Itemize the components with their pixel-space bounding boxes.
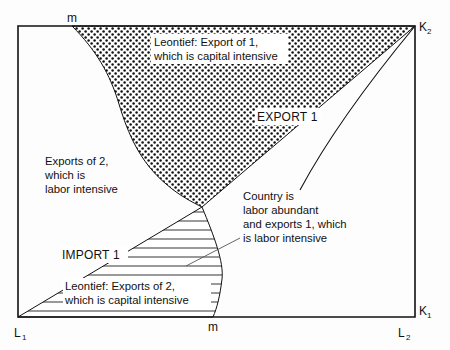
leontief-exports-2-line-1: which is capital intensive [64,294,189,306]
corner-L2-sub: 2 [406,333,411,342]
annotation-exports-of-2: Exports of 2, which is labor intensive [44,155,118,195]
annotation-leontief-exports-2: Leontief: Exports of 2, which is capital… [63,278,211,308]
corner-K2-sub: 2 [427,27,432,36]
diagram-root: L 1 L 2 K 1 K 2 m m Leontief: Export of … [0,0,450,350]
corner-label-K2: K 2 [419,20,432,36]
annotation-export-1: EXPORT 1 [255,108,321,125]
corner-label-L1: L 1 [14,326,27,342]
leontief-export-1-line-0: Leontief: Export of 1, [154,36,258,48]
corner-L1-base: L [14,326,21,340]
annotation-import-1: IMPORT 1 [60,246,128,263]
corner-label-L2: L 2 [398,326,411,342]
country-line-2: and exports 1, which [243,218,347,230]
country-line-3: is labor intensive [243,232,327,244]
corner-K1-base: K [419,304,427,318]
corner-L1-sub: 1 [22,333,27,342]
corner-L2-base: L [398,326,405,340]
import-1-line-0: IMPORT 1 [62,248,120,262]
export-1-line-0: EXPORT 1 [257,110,318,124]
exports-of-2-line-0: Exports of 2, [45,155,108,167]
leontief-box-figure: L 1 L 2 K 1 K 2 m m Leontief: Export of … [0,0,450,350]
corner-K1-sub: 1 [427,311,432,320]
corner-K2-base: K [419,20,427,34]
annotation-leontief-export-1: Leontief: Export of 1, which is capital … [151,34,288,64]
m-label-top: m [67,11,77,25]
m-label-bottom: m [208,320,218,334]
exports-of-2-line-1: which is [44,169,86,181]
exports-of-2-line-2: labor intensive [45,183,118,195]
country-line-0: Country is [243,190,294,202]
leontief-export-1-line-1: which is capital intensive [153,50,278,62]
country-line-1: labor abundant [243,204,319,216]
leontief-exports-2-line-0: Leontief: Exports of 2, [65,280,175,292]
corner-label-K1: K 1 [419,304,432,320]
annotation-country-labor-abundant: Country is labor abundant and exports 1,… [243,190,347,244]
